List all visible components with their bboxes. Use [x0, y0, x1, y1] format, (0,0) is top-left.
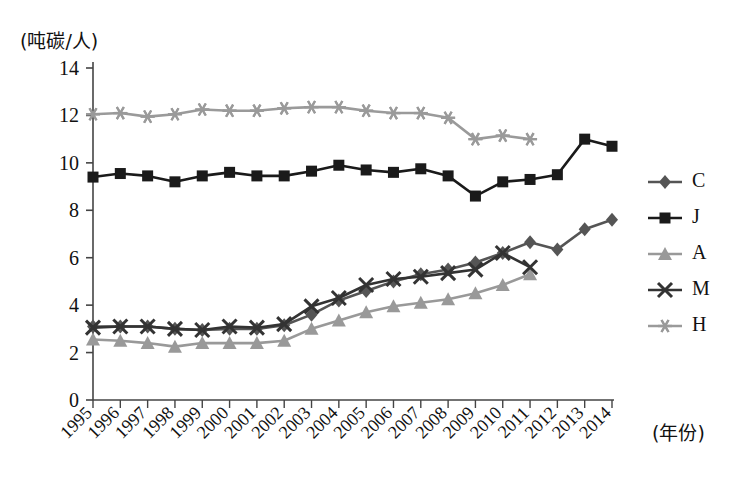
legend-label: A: [692, 241, 707, 263]
data-point-marker: [443, 170, 454, 181]
data-point-marker: [359, 105, 373, 117]
legend-item-M[interactable]: M: [648, 277, 710, 299]
data-point-marker: [523, 133, 537, 145]
data-point-marker: [607, 141, 618, 152]
data-point-marker: [142, 170, 153, 181]
y-axis-tick-label: 10: [59, 152, 79, 174]
series-J: [88, 134, 618, 202]
legend-item-H[interactable]: H: [648, 313, 706, 335]
data-point-marker: [497, 176, 508, 187]
data-point-marker: [277, 102, 291, 114]
data-point-marker: [223, 105, 237, 117]
y-axis-tick-label: 12: [59, 104, 79, 126]
y-axis-tick-label: 6: [69, 247, 79, 269]
y-axis-tick-label: 14: [59, 57, 79, 79]
y-axis-tick-label: 4: [69, 294, 79, 316]
y-axis-tick-label: 2: [69, 342, 79, 364]
data-point-marker: [414, 107, 428, 119]
data-point-marker: [386, 107, 400, 119]
legend-item-J[interactable]: J: [648, 205, 700, 227]
chart-svg: 02468101214 1995199619971998199920002001…: [0, 0, 743, 485]
data-point-marker: [88, 172, 99, 183]
data-point-marker: [305, 101, 319, 113]
data-point-marker: [141, 111, 155, 123]
series-C: [87, 213, 618, 337]
data-point-marker: [168, 108, 182, 120]
legend-label: J: [692, 205, 700, 227]
data-point-marker: [606, 213, 618, 227]
chart-container: (吨碳/人) (年份) 02468101214 1995199619971998…: [0, 0, 743, 485]
data-point-marker: [470, 191, 481, 202]
series-line: [93, 107, 530, 139]
series-line: [93, 220, 612, 330]
data-point-marker: [524, 235, 536, 249]
data-point-marker: [525, 174, 536, 185]
data-point-marker: [332, 101, 346, 113]
x-axis-labels: 1995199619971998199920002001200220032004…: [56, 403, 615, 443]
data-point-marker: [552, 169, 563, 180]
data-point-marker: [113, 107, 127, 119]
data-point-marker: [579, 134, 590, 145]
data-point-marker: [361, 164, 372, 175]
series-line: [93, 139, 612, 196]
data-point-marker: [195, 103, 209, 115]
series-group: [86, 101, 618, 353]
data-point-marker: [496, 278, 510, 291]
data-point-marker: [169, 176, 180, 187]
y-axis-tick-label: 8: [69, 199, 79, 221]
x-axis-tick-label: 2014: [575, 403, 615, 443]
data-point-marker: [224, 167, 235, 178]
data-point-marker: [197, 170, 208, 181]
data-point-marker: [306, 166, 317, 177]
legend-label: C: [692, 169, 705, 191]
chart-legend: CJAMH: [648, 169, 710, 335]
data-point-marker: [658, 320, 672, 332]
legend-label: M: [692, 277, 710, 299]
y-axis-tick-group: 02468101214: [59, 57, 93, 411]
data-point-marker: [496, 130, 510, 142]
data-point-marker: [333, 160, 344, 171]
data-point-marker: [279, 170, 290, 181]
legend-item-A[interactable]: A: [648, 241, 707, 263]
data-point-marker: [415, 163, 426, 174]
legend-item-C[interactable]: C: [648, 169, 705, 191]
data-point-marker: [250, 105, 264, 117]
data-point-marker: [660, 213, 671, 224]
series-H: [86, 101, 537, 145]
data-point-marker: [659, 175, 671, 189]
legend-label: H: [692, 313, 706, 335]
data-point-marker: [551, 242, 563, 256]
data-point-marker: [579, 222, 591, 236]
data-point-marker: [251, 170, 262, 181]
data-point-marker: [115, 168, 126, 179]
data-point-marker: [388, 167, 399, 178]
